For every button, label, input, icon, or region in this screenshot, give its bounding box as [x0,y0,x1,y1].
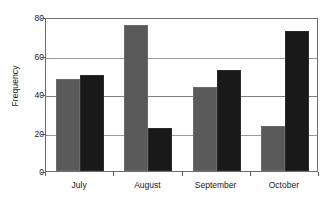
x-tick-label-september: September [195,180,237,190]
bar-august-series-1 [124,25,148,171]
x-tick-mark [318,172,319,176]
gridline [46,58,317,59]
bar-october-series-1 [261,126,285,171]
plot-area [45,18,318,172]
y-axis-title: Frequency [6,0,24,172]
x-tick-mark [45,172,46,176]
x-tick-label-august: August [134,180,160,190]
bar-september-series-2 [217,70,241,171]
bar-october-series-2 [285,31,309,171]
x-tick-label-july: July [72,180,87,190]
bar-chart: Frequency 020406080 JulyAugustSeptemberO… [0,0,333,206]
x-tick-mark [113,172,114,176]
x-tick-label-october: October [269,180,299,190]
x-tick-mark [250,172,251,176]
x-tick-mark [182,172,183,176]
bar-july-series-1 [56,79,80,171]
bar-july-series-2 [80,75,104,171]
y-axis-title-label: Frequency [10,65,20,106]
bar-august-series-2 [148,128,172,171]
bar-september-series-1 [193,87,217,171]
